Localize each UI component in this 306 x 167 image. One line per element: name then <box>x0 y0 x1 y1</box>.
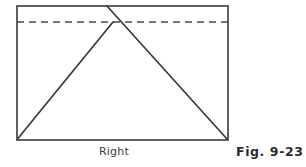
figure-caption-right: Right <box>0 145 228 158</box>
figure-diagram <box>0 0 306 167</box>
figure-container: Right Fig. 9-23 <box>0 0 306 167</box>
outer-rectangle <box>17 6 228 140</box>
figure-number-label: Fig. 9-23 <box>236 144 304 159</box>
